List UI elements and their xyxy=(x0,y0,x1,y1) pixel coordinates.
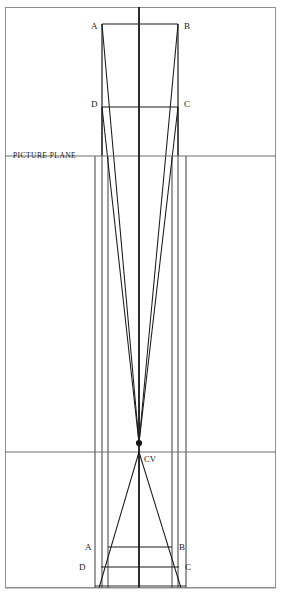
plan-label-c: C xyxy=(184,100,190,109)
view-label-d: D xyxy=(79,563,86,572)
picture-plane-label: PICTURE PLANE xyxy=(13,152,76,160)
view-label-c: C xyxy=(185,563,191,572)
plan-label-a: A xyxy=(91,22,98,31)
diagram-canvas xyxy=(0,0,282,595)
view-label-b: B xyxy=(179,543,185,552)
center-of-vision-label: CV xyxy=(144,455,156,464)
plan-label-d: D xyxy=(91,100,98,109)
drawing-frame xyxy=(6,8,276,588)
perspective-diagram: PICTURE PLANE CV A B D C A B D C xyxy=(0,0,282,595)
view-label-a: A xyxy=(85,543,92,552)
station-point-dot xyxy=(136,440,142,446)
plan-label-b: B xyxy=(184,22,190,31)
